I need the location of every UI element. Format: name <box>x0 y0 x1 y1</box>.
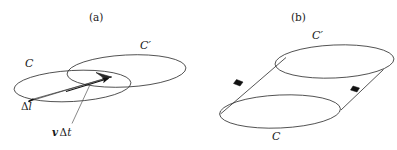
tube-side-line-left <box>221 58 287 115</box>
panel-b-label-c: C <box>272 130 280 143</box>
sliver-tip-wedge <box>96 73 112 79</box>
tube-arrow-marker-right <box>351 86 360 92</box>
panel-a-label-v-delta-t: vΔt <box>52 126 71 138</box>
figure-panel-b: (b) C′ C <box>198 0 397 150</box>
panel-b-label-c-prime: C′ <box>312 29 323 42</box>
ellipse-curve-c-prime <box>274 42 394 80</box>
delta-symbol: Δ <box>21 100 29 112</box>
panel-a-label-delta-l: Δl <box>21 100 32 112</box>
tube-side-line-right <box>341 70 384 111</box>
panel-a-label-c-prime: C′ <box>140 39 151 52</box>
velocity-time-variable: t <box>67 126 71 138</box>
panel-a-drawing <box>0 0 199 150</box>
ellipse-curve-c-prime <box>66 52 187 90</box>
panel-b-drawing <box>198 0 397 150</box>
swept-area-sliver <box>29 77 112 102</box>
velocity-symbol: v <box>52 126 58 138</box>
tube-arrow-marker-left <box>234 80 244 87</box>
delta-l-variable: l <box>29 100 32 112</box>
panel-a-label-c: C <box>25 57 33 70</box>
ellipse-curve-c <box>219 92 341 130</box>
figure-panel-a: (a) C C′ Δl <box>0 0 199 150</box>
figure-root: (a) C C′ Δl <box>0 0 397 150</box>
